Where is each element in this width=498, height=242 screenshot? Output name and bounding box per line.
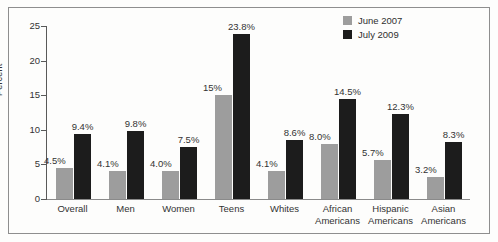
bar-value-label: 8.3%	[437, 130, 470, 140]
bar-june-2007[interactable]	[109, 171, 126, 199]
y-tick-0	[41, 199, 47, 200]
bar-value-label: 4.0%	[150, 159, 181, 169]
x-category-line: Women	[152, 203, 205, 215]
x-category-line: Asian	[417, 203, 470, 215]
bar-june-2007[interactable]	[268, 171, 285, 199]
bar-value-label: 12.3%	[384, 102, 417, 112]
bar-group: 3.2%8.3%	[417, 26, 470, 199]
x-category-label: HispanicAmericans	[364, 203, 417, 226]
bar-group: 4.5%9.4%	[46, 26, 99, 199]
bar-group: 8.0%14.5%	[311, 26, 364, 199]
x-category-label: Whites	[258, 203, 311, 215]
page-border-top	[8, 7, 490, 8]
bar-value-label: 23.8%	[225, 22, 258, 32]
page-border-right	[489, 7, 490, 234]
x-category-label: AsianAmericans	[417, 203, 470, 226]
bar-july-2009[interactable]	[392, 114, 409, 199]
x-category-label: Men	[99, 203, 152, 215]
bar-july-2009[interactable]	[233, 34, 250, 199]
y-tick-label: 0	[0, 193, 40, 204]
x-category-line: Hispanic	[364, 203, 417, 215]
y-tick-label: 25	[0, 20, 40, 31]
x-category-line: Whites	[258, 203, 311, 215]
bar-june-2007[interactable]	[374, 160, 391, 199]
x-axis-line	[46, 199, 470, 200]
legend-item[interactable]: June 2007	[343, 15, 402, 26]
bar-value-label: 7.5%	[172, 135, 205, 145]
y-tick-label: 20	[0, 55, 40, 66]
x-category-line: Americans	[311, 215, 364, 227]
bar-value-label: 15%	[203, 83, 234, 93]
x-category-line: Americans	[364, 215, 417, 227]
bar-june-2007[interactable]	[215, 95, 232, 199]
bar-value-label: 14.5%	[331, 87, 364, 97]
bar-value-label: 4.1%	[256, 159, 287, 169]
bar-value-label: 8.6%	[278, 128, 311, 138]
bar-group: 5.7%12.3%	[364, 26, 417, 199]
bar-july-2009[interactable]	[286, 140, 303, 200]
y-tick-label: 10	[0, 124, 40, 135]
plot-area: 4.5%9.4%4.1%9.8%4.0%7.5%15%23.8%4.1%8.6%…	[46, 26, 470, 199]
bar-july-2009[interactable]	[339, 99, 356, 199]
x-category-line: African	[311, 203, 364, 215]
legend-swatch-icon	[343, 16, 352, 25]
x-category-label: Women	[152, 203, 205, 215]
legend-label: July 2009	[358, 29, 399, 40]
bar-june-2007[interactable]	[427, 177, 444, 199]
legend-swatch-icon	[343, 30, 352, 39]
x-category-label: Overall	[46, 203, 99, 215]
bar-group: 4.1%9.8%	[99, 26, 152, 199]
legend-item[interactable]: July 2009	[343, 29, 402, 40]
chart-page: Percent 0510152025 4.5%9.4%4.1%9.8%4.0%7…	[0, 0, 498, 242]
bar-june-2007[interactable]	[162, 171, 179, 199]
bar-value-label: 3.2%	[415, 165, 446, 175]
x-category-line: Americans	[417, 215, 470, 227]
bar-value-label: 4.5%	[44, 156, 75, 166]
bar-value-label: 4.1%	[97, 159, 128, 169]
bar-value-label: 9.8%	[119, 119, 152, 129]
bar-june-2007[interactable]	[321, 144, 338, 199]
x-category-label: Teens	[205, 203, 258, 215]
bar-july-2009[interactable]	[445, 142, 462, 199]
bar-july-2009[interactable]	[180, 147, 197, 199]
y-tick-label: 5	[0, 158, 40, 169]
y-tick-label: 15	[0, 89, 40, 100]
bar-june-2007[interactable]	[56, 168, 73, 199]
legend-label: June 2007	[358, 15, 402, 26]
x-category-label: AfricanAmericans	[311, 203, 364, 226]
bar-value-label: 5.7%	[362, 148, 393, 158]
page-border-bottom	[8, 233, 490, 234]
chart-legend: June 2007July 2009	[343, 15, 402, 43]
bar-group: 4.0%7.5%	[152, 26, 205, 199]
bar-july-2009[interactable]	[74, 134, 91, 199]
bar-july-2009[interactable]	[127, 131, 144, 199]
bar-value-label: 8.0%	[309, 132, 340, 142]
x-category-line: Teens	[205, 203, 258, 215]
bar-value-label: 9.4%	[66, 122, 99, 132]
bar-group: 4.1%8.6%	[258, 26, 311, 199]
x-category-line: Men	[99, 203, 152, 215]
x-category-line: Overall	[46, 203, 99, 215]
bar-group: 15%23.8%	[205, 26, 258, 199]
